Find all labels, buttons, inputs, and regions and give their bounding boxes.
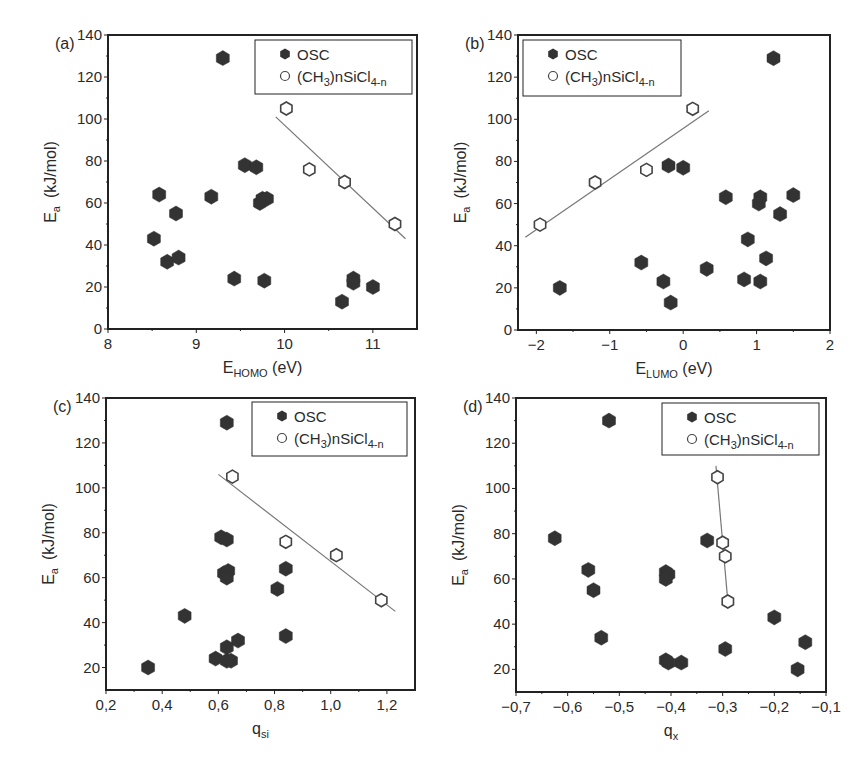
osc-data-point: [216, 51, 229, 66]
legend-osc-label: OSC: [294, 408, 327, 425]
y-tick-label: 20: [85, 278, 102, 295]
x-axis-title: EHOMO (eV): [223, 359, 303, 379]
x-tick-label: −0,5: [605, 698, 635, 715]
y-tick-label: 40: [495, 237, 512, 254]
panel-c: (c)0,20,40,60,81,01,220406080100120140qs…: [40, 389, 415, 740]
osc-data-point: [595, 630, 608, 645]
x-tick-label: 0,6: [208, 696, 229, 713]
osc-data-point: [271, 581, 284, 596]
osc-data-point: [774, 207, 787, 222]
ch3-legend-marker: [278, 434, 287, 443]
legend: OSC(CH3)nSiCl4-n: [523, 40, 681, 96]
ch3-data-point: [280, 535, 291, 548]
y-tick-label: 60: [83, 569, 100, 586]
osc-data-point: [366, 280, 379, 295]
y-tick-label: 100: [485, 479, 510, 496]
osc-data-point: [719, 642, 732, 657]
osc-data-point: [587, 583, 600, 598]
y-tick-label: 0: [504, 321, 512, 338]
osc-data-point: [741, 232, 754, 247]
x-tick-label: 10: [276, 335, 293, 352]
y-tick-label: 100: [77, 110, 102, 127]
x-tick-label: −1: [601, 336, 618, 353]
ch3-data-point: [304, 163, 315, 176]
osc-data-point: [147, 231, 160, 246]
x-axis-title: qsi: [252, 720, 269, 740]
y-tick-label: 40: [83, 614, 100, 631]
legend-box: [255, 40, 412, 94]
x-tick-label: 0,8: [264, 696, 285, 713]
osc-data-point: [170, 206, 183, 221]
y-axis-title: Ea(kJ/mol): [42, 141, 62, 223]
y-tick-label: 120: [77, 68, 102, 85]
y-tick-label: 120: [485, 434, 510, 451]
ch3-data-point: [389, 218, 400, 231]
osc-data-point: [142, 660, 155, 675]
panel-b: (b)−2−1012020406080100120140ELUMO (eV)Ea…: [452, 26, 834, 380]
osc-data-point: [553, 280, 566, 295]
y-axis-title: Ea(kJ/mol): [450, 504, 470, 586]
ch3-data-point: [720, 550, 731, 563]
osc-data-point: [228, 271, 241, 286]
x-axis-title: qx: [664, 722, 679, 742]
x-tick-label: 1,2: [376, 696, 397, 713]
legend-osc-label: OSC: [565, 46, 598, 63]
osc-data-point: [768, 610, 781, 625]
y-tick-label: 60: [495, 195, 512, 212]
y-tick-label: 60: [493, 570, 510, 587]
legend: OSC(CH3)nSiCl4-n: [252, 402, 407, 456]
y-tick-label: 120: [75, 434, 100, 451]
x-tick-label: 9: [192, 335, 200, 352]
osc-data-point: [548, 531, 561, 546]
x-tick-label: 0: [679, 336, 687, 353]
panel-label: (a): [55, 35, 75, 52]
osc-data-point: [161, 254, 174, 269]
osc-data-point: [635, 255, 648, 270]
ch3-data-point: [281, 102, 292, 115]
y-tick-label: 80: [495, 152, 512, 169]
osc-data-point: [760, 251, 773, 266]
osc-data-point: [153, 187, 166, 202]
y-tick-label: 140: [487, 26, 512, 43]
panel-label: (c): [53, 398, 72, 415]
y-tick-label: 100: [75, 479, 100, 496]
osc-data-point: [220, 415, 233, 430]
fit-line: [716, 466, 728, 602]
osc-data-point: [664, 295, 677, 310]
x-tick-label: 0,2: [96, 696, 117, 713]
osc-data-point: [172, 250, 185, 265]
ch3-legend-marker: [281, 72, 290, 81]
osc-data-point: [787, 188, 800, 203]
x-tick-label: −0,3: [708, 698, 738, 715]
y-tick-label: 80: [83, 524, 100, 541]
osc-data-point: [738, 272, 751, 287]
x-tick-label: 8: [104, 335, 112, 352]
osc-data-point: [791, 662, 804, 677]
ch3-data-point: [227, 470, 238, 483]
osc-data-point: [657, 274, 670, 289]
y-tick-label: 80: [493, 525, 510, 542]
x-tick-label: 11: [365, 335, 381, 352]
x-tick-label: −0,1: [811, 698, 841, 715]
y-tick-label: 60: [85, 194, 102, 211]
y-tick-label: 140: [485, 389, 510, 406]
x-tick-label: −0,2: [760, 698, 790, 715]
osc-data-point: [250, 160, 263, 175]
osc-data-point: [336, 294, 349, 309]
osc-data-point: [205, 189, 218, 204]
ch3-data-point: [534, 218, 545, 231]
y-tick-label: 20: [83, 659, 100, 676]
x-tick-label: −0,6: [553, 698, 583, 715]
y-tick-label: 100: [487, 110, 512, 127]
y-tick-label: 80: [85, 152, 102, 169]
x-tick-label: −0,7: [501, 698, 531, 715]
y-tick-label: 140: [77, 26, 102, 43]
panel-a: (a)891011020406080100120140EHOMO (eV)Ea(…: [42, 26, 417, 379]
y-tick-label: 40: [493, 615, 510, 632]
osc-data-point: [701, 533, 714, 548]
ch3-data-point: [717, 536, 728, 549]
legend-osc-label: OSC: [704, 409, 737, 426]
y-tick-label: 140: [75, 389, 100, 406]
osc-data-point: [754, 274, 767, 289]
x-axis-title: ELUMO (eV): [635, 360, 712, 380]
